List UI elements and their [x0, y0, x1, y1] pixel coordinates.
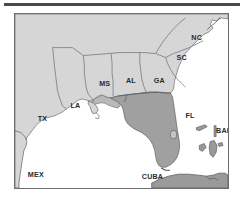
label-la: LA: [70, 102, 80, 110]
label-al: AL: [126, 77, 136, 85]
region-bahamas-island-5: [218, 143, 223, 147]
figure-root: NC SC GA AL MS LA TX FL BAH MEX CUBA: [0, 0, 243, 205]
top-divider-rule: [4, 3, 240, 6]
label-sc: SC: [176, 54, 186, 62]
label-nc: NC: [191, 34, 202, 42]
label-ms: MS: [99, 80, 110, 88]
map-canvas: NC SC GA AL MS LA TX FL BAH MEX CUBA: [15, 14, 228, 188]
label-ga: GA: [154, 77, 165, 85]
label-cuba: CUBA: [142, 173, 163, 181]
feature-lake-okeechobee: [170, 130, 176, 138]
label-fl: FL: [185, 112, 195, 120]
map-frame: NC SC GA AL MS LA TX FL BAH MEX CUBA: [14, 13, 229, 189]
label-bah: BAH: [216, 127, 228, 135]
label-mex: MEX: [28, 171, 44, 179]
label-tx: TX: [38, 115, 48, 123]
